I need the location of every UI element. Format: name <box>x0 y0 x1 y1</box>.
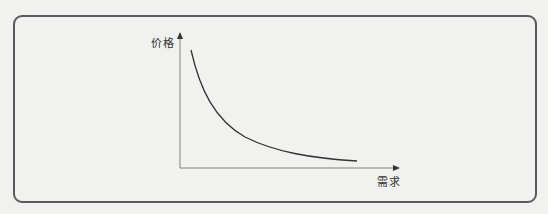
y-axis-label: 价格 <box>151 34 175 50</box>
demand-curve <box>191 50 357 161</box>
x-axis-label: 需求 <box>377 173 401 189</box>
x-axis-arrow-icon <box>393 165 400 171</box>
y-axis-arrow-icon <box>177 32 183 39</box>
demand-curve-diagram <box>0 0 548 214</box>
